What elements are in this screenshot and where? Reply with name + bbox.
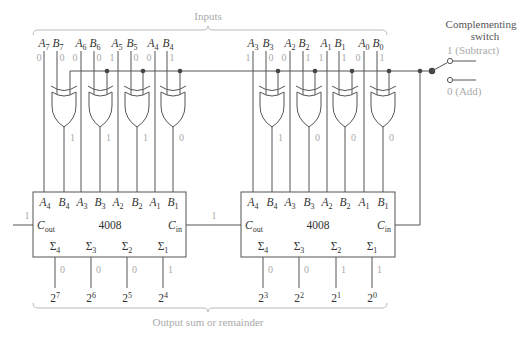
- value-a3: 1: [246, 52, 251, 63]
- output-values: 0 0 0 1 0 0 1 1: [60, 264, 382, 275]
- xor-out-bit7: 1: [70, 132, 75, 143]
- junction-dot: [350, 69, 355, 74]
- input-label-a4: A4: [146, 37, 158, 52]
- complementing-switch[interactable]: Complementing switch 1 (Subtract) 0 (Add…: [429, 18, 517, 98]
- switch-lever[interactable]: [432, 63, 448, 72]
- input-label-b5: B5: [126, 37, 137, 52]
- input-label-a2: A2: [283, 37, 295, 52]
- input-label-a5: A5: [110, 37, 122, 52]
- output-weight-labels: 27 26 25 24 23 22 21 20: [50, 291, 377, 304]
- weight-label: 25: [122, 291, 132, 304]
- cin-feed-wire: [395, 71, 420, 225]
- input-label-b2: B2: [298, 37, 309, 52]
- value-a4: 0: [147, 52, 152, 63]
- value-b5: 0: [134, 52, 139, 63]
- adder-chip-low: A4 B4 A3 B3 A2 B2 A1 B1 Cout 4008 Cin Σ4…: [241, 192, 395, 257]
- weight-label: 24: [158, 291, 168, 304]
- chip-number: 4008: [99, 219, 122, 231]
- switch-contact-add[interactable]: [447, 77, 452, 82]
- chip-number: 4008: [307, 219, 330, 231]
- junction-dot: [387, 69, 392, 74]
- xor-out-bit4: 0: [179, 132, 184, 143]
- output-label: Output sum or remainder: [153, 316, 264, 328]
- input-label-a7: A7: [37, 37, 49, 52]
- weight-label: 21: [331, 291, 341, 304]
- value-b6: 0: [97, 52, 102, 63]
- junction-dot: [276, 69, 281, 74]
- junction-dot: [313, 69, 318, 74]
- input-label-a0: A0: [357, 37, 369, 52]
- input-label-a3: A3: [246, 37, 258, 52]
- input-label-b3: B3: [262, 37, 273, 52]
- xor-out-bit5: 1: [143, 132, 148, 143]
- value-b2: 1: [306, 52, 311, 63]
- value-b4: 1: [170, 52, 175, 63]
- output-value-2-7: 0: [60, 264, 65, 275]
- adder-chip-high: A4 B4 A3 B3 A2 B2 A1 B1 Cout 4008 Cin Σ4…: [33, 192, 186, 257]
- intermediate-carry-value: 1: [212, 210, 217, 221]
- input-label-b4: B4: [162, 37, 173, 52]
- output-value-2-5: 0: [132, 264, 137, 275]
- input-label-a1: A1: [319, 37, 331, 52]
- output-value-2-3: 0: [268, 264, 273, 275]
- switch-contact-subtract[interactable]: [447, 58, 452, 63]
- output-brace: [33, 303, 387, 312]
- input-label-a6: A6: [74, 37, 86, 52]
- output-value-2-0: 1: [377, 264, 382, 275]
- value-a1: 1: [319, 52, 324, 63]
- input-label-b6: B6: [89, 37, 100, 52]
- input-label-b7: B7: [52, 37, 63, 52]
- value-b0: 1: [380, 52, 385, 63]
- output-value-2-1: 1: [341, 264, 346, 275]
- inputs-brace: [33, 26, 387, 35]
- xor-out-bit2: 0: [315, 132, 320, 143]
- weight-label: 20: [367, 291, 377, 304]
- switch-add-label: 0 (Add): [447, 85, 482, 98]
- b-input-wires: [57, 51, 377, 95]
- switch-title-line1: Complementing: [446, 18, 517, 30]
- value-b7: 0: [60, 52, 65, 63]
- input-labels: A7 B7 A6 B6 A5 B5 A4 B4 A3 B3 A2 B2 A1 B…: [37, 37, 383, 52]
- input-label-b1: B1: [334, 37, 345, 52]
- junction-dot: [141, 69, 146, 74]
- xor-out-bit1: 0: [351, 132, 356, 143]
- switch-subtract-label: 1 (Subtract): [447, 44, 500, 57]
- subtractor-circuit-diagram: Inputs A7 B7 A6 B6 A5 B5 A4 B4 A3 B3 A2 …: [0, 0, 525, 337]
- weight-label: 22: [294, 291, 304, 304]
- inputs-label: Inputs: [194, 10, 222, 22]
- junction-dot: [178, 69, 183, 74]
- xor-out-bit0: 0: [389, 132, 394, 143]
- value-b3: 0: [269, 52, 274, 63]
- value-a0: 0: [356, 52, 361, 63]
- xor-out-bit6: 1: [106, 132, 111, 143]
- value-a7: 0: [37, 52, 42, 63]
- output-wires: [55, 257, 372, 288]
- xor-out-bit3: 1: [278, 132, 283, 143]
- final-carry-value: 1: [25, 210, 30, 221]
- switch-title-line2: switch: [471, 30, 500, 42]
- value-a6: 0: [73, 52, 78, 63]
- value-a5: 1: [110, 52, 115, 63]
- input-values: 0 0 0 0 1 0 0 1 1 0 0 1 1 1 0 1: [37, 52, 385, 63]
- output-value-2-6: 0: [96, 264, 101, 275]
- weight-label: 27: [50, 291, 60, 304]
- value-a2: 0: [282, 52, 287, 63]
- weight-label: 23: [258, 291, 268, 304]
- input-label-b0: B0: [372, 37, 383, 52]
- output-value-2-4: 1: [168, 264, 173, 275]
- weight-label: 26: [86, 291, 96, 304]
- value-b1: 1: [342, 52, 347, 63]
- junction-dot: [105, 69, 110, 74]
- output-value-2-2: 0: [304, 264, 309, 275]
